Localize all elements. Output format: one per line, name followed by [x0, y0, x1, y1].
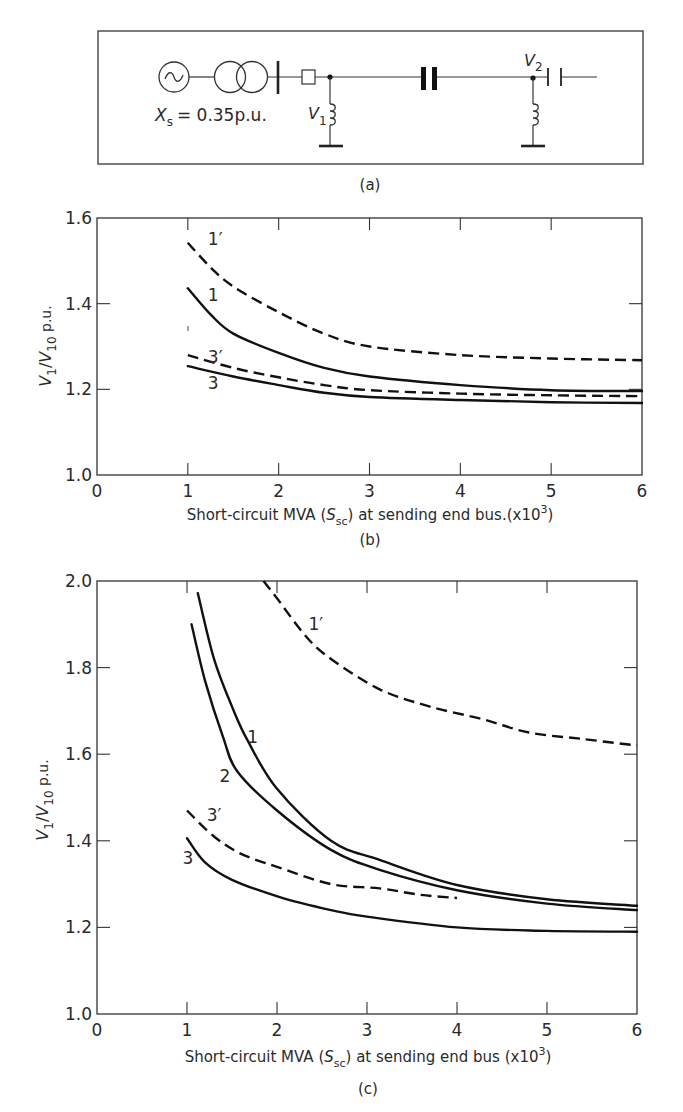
- series-label: 3′: [207, 805, 222, 825]
- chart-panel-b: 0123456 1.01.21.41.6 1′13′3 V1/V10 p.u. …: [36, 208, 647, 549]
- x-tick-label: 5: [546, 481, 557, 501]
- transformer-icon: [215, 62, 268, 93]
- y-tick-label: 1.2: [65, 379, 92, 399]
- y-tick-label: 1.8: [65, 658, 92, 678]
- y-tick-label: 1.6: [65, 744, 92, 764]
- y-tick-label: 1.0: [65, 1004, 92, 1024]
- series-curve-1: [198, 593, 637, 906]
- series-label: 3: [208, 373, 219, 393]
- x-axis-label: Short-circuit MVA (Ssc) at sending end b…: [185, 1045, 552, 1070]
- series-label: 3′: [208, 347, 223, 367]
- series-curve-2: [192, 624, 638, 910]
- series-label: 2: [219, 766, 230, 786]
- y-tick-label: 1.6: [65, 208, 92, 228]
- x-tick-label: 4: [455, 481, 466, 501]
- y-axis-label: V1/V10 p.u.: [36, 305, 59, 386]
- series-label: 1′: [309, 614, 324, 634]
- node-v1-label: V1: [308, 104, 327, 128]
- series-curve-3-prime: [187, 811, 457, 899]
- x-tick-label: 1: [182, 481, 193, 501]
- series-label: 1′: [208, 229, 223, 249]
- y-tick-label: 1.0: [65, 465, 92, 485]
- x-axis-ticks: 0123456: [92, 581, 643, 1040]
- x-tick-label: 3: [362, 1020, 373, 1040]
- panel-c-caption: (c): [358, 1080, 378, 1098]
- series-curve-3: [187, 838, 637, 932]
- end-capacitor-icon: [548, 68, 561, 86]
- x-tick-label: 1: [182, 1020, 193, 1040]
- x-tick-label: 5: [542, 1020, 553, 1040]
- node-v2-label: V2: [524, 51, 543, 74]
- y-axis-ticks: 1.01.21.41.6: [65, 208, 642, 485]
- panel-a-caption: (a): [360, 176, 381, 194]
- series-curve-1-prime: [188, 243, 642, 360]
- y-axis-label: V1/V10 p.u.: [33, 759, 56, 840]
- series-curve-1-prime: [264, 581, 638, 746]
- circuit-frame: [98, 31, 643, 164]
- y-tick-label: 1.4: [65, 831, 92, 851]
- x-tick-label: 0: [92, 1020, 103, 1040]
- series-label: 3: [183, 848, 194, 868]
- x-tick-label: 6: [632, 1020, 643, 1040]
- figure-canvas: Xs= 0.35p.u. V1 V2 (a) 0123456 1.01.21.4…: [0, 0, 683, 1112]
- x-tick-label: 2: [272, 1020, 283, 1040]
- y-tick-label: 1.2: [65, 917, 92, 937]
- series-curve-1: [188, 288, 642, 391]
- series-lines: 1′13′3: [188, 229, 642, 403]
- series-label: 1: [247, 727, 258, 747]
- series-label: 1: [208, 285, 219, 305]
- source-reactance-label: Xs= 0.35p.u.: [154, 105, 267, 129]
- series-lines: 1′123′3: [183, 581, 638, 932]
- x-axis-label: Short-circuit MVA (Ssc) at sending end b…: [187, 503, 554, 528]
- y-tick-label: 1.4: [65, 294, 92, 314]
- x-tick-label: 0: [92, 481, 103, 501]
- x-tick-label: 3: [364, 481, 375, 501]
- plot-frame: [97, 581, 637, 1014]
- circuit-breaker-icon: [302, 70, 315, 84]
- ac-generator-icon: [159, 62, 189, 92]
- shunt-reactor-v1-icon: [319, 77, 343, 146]
- circuit-diagram-panel: Xs= 0.35p.u. V1 V2 (a): [98, 31, 643, 194]
- x-tick-label: 2: [273, 481, 284, 501]
- y-axis-ticks: 1.01.21.41.61.82.0: [65, 571, 637, 1024]
- x-tick-label: 4: [452, 1020, 463, 1040]
- series-capacitor-icon: [421, 67, 437, 90]
- x-tick-label: 6: [637, 481, 648, 501]
- shunt-reactor-v2-icon: [521, 78, 545, 146]
- chart-panel-c: 0123456 1.01.21.41.61.82.0 1′123′3 V1/V1…: [33, 571, 642, 1098]
- panel-b-caption: (b): [359, 531, 380, 549]
- y-tick-label: 2.0: [65, 571, 92, 591]
